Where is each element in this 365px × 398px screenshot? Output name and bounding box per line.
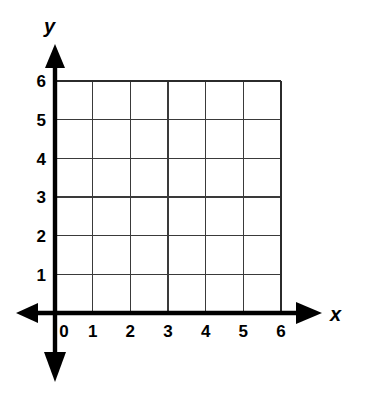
- x-tick-label-4: 4: [201, 322, 211, 341]
- y-tick-label-5: 5: [37, 111, 46, 130]
- x-tick-label-0: 0: [59, 322, 68, 341]
- coordinate-plane: 0 1 2 3 4 5 6 1 2 3 4 5 6 x y: [0, 0, 365, 398]
- coordinate-grid-figure: 0 1 2 3 4 5 6 1 2 3 4 5 6 x y: [0, 0, 365, 398]
- y-tick-label-1: 1: [37, 266, 46, 285]
- x-tick-label-3: 3: [163, 322, 172, 341]
- y-tick-label-6: 6: [37, 72, 46, 91]
- y-tick-label-4: 4: [37, 150, 47, 169]
- x-tick-label-1: 1: [88, 322, 97, 341]
- y-axis-label: y: [43, 15, 56, 37]
- x-tick-label-2: 2: [126, 322, 135, 341]
- y-tick-label-2: 2: [37, 227, 46, 246]
- x-tick-label-5: 5: [239, 322, 248, 341]
- y-tick-label-3: 3: [37, 188, 46, 207]
- x-axis-label: x: [329, 303, 342, 325]
- x-tick-label-6: 6: [276, 322, 285, 341]
